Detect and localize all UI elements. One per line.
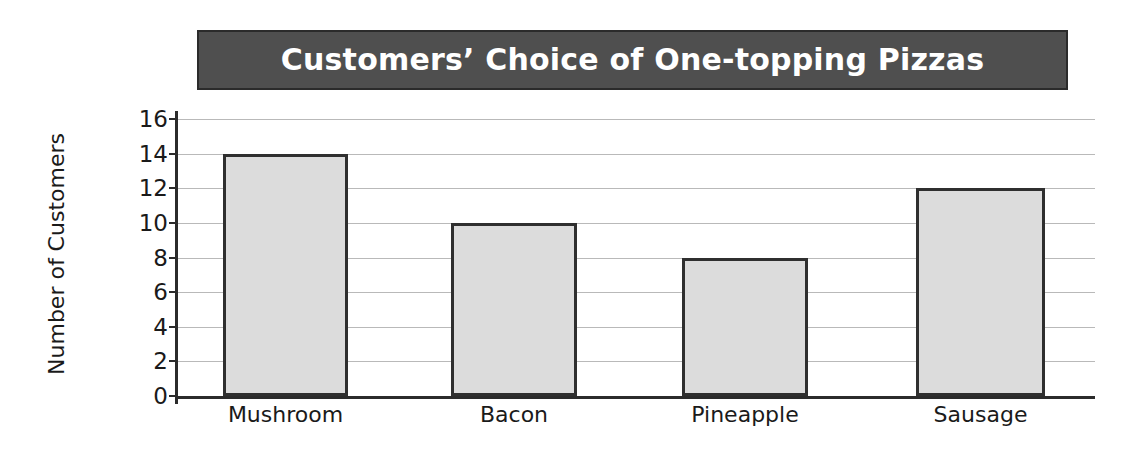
y-axis-tick-label: 6 bbox=[153, 281, 168, 304]
y-axis-tick bbox=[169, 257, 178, 259]
gridline bbox=[178, 119, 1095, 120]
y-axis-label-text: Number of Customers bbox=[44, 133, 69, 375]
plot-area bbox=[178, 119, 1095, 396]
bar-mushroom bbox=[223, 154, 348, 396]
y-axis-tick-label: 8 bbox=[153, 246, 168, 269]
bar-pineapple bbox=[682, 258, 808, 397]
y-axis-tick-label: 10 bbox=[139, 211, 168, 234]
x-axis-label-bacon: Bacon bbox=[480, 404, 548, 426]
bar-sausage bbox=[916, 188, 1045, 396]
y-axis-tick-label: 0 bbox=[153, 385, 168, 408]
y-axis-tick bbox=[169, 222, 178, 224]
y-axis-tick bbox=[169, 395, 178, 397]
bar-chart: Customers’ Choice of One-topping Pizzas … bbox=[0, 0, 1128, 460]
y-axis-tick-label: 4 bbox=[153, 315, 168, 338]
chart-title: Customers’ Choice of One-topping Pizzas bbox=[281, 45, 984, 75]
x-axis-label-pineapple: Pineapple bbox=[691, 404, 798, 426]
y-axis-tick-label: 14 bbox=[139, 142, 168, 165]
y-axis-tick-label: 2 bbox=[153, 350, 168, 373]
y-axis-tick bbox=[169, 291, 178, 293]
x-axis-line bbox=[175, 396, 1095, 399]
x-axis-label-mushroom: Mushroom bbox=[228, 404, 343, 426]
x-axis-label-sausage: Sausage bbox=[934, 404, 1028, 426]
y-axis-tick bbox=[169, 118, 178, 120]
y-axis-tick bbox=[169, 187, 178, 189]
y-axis-tick bbox=[169, 153, 178, 155]
y-axis-label: Number of Customers bbox=[36, 108, 76, 400]
y-axis-tick bbox=[169, 360, 178, 362]
bar-bacon bbox=[451, 223, 577, 396]
x-axis-category-labels: MushroomBaconPineappleSausage bbox=[178, 404, 1095, 438]
y-axis-tick bbox=[169, 326, 178, 328]
chart-title-banner: Customers’ Choice of One-topping Pizzas bbox=[197, 30, 1068, 90]
y-axis-tick-label: 16 bbox=[139, 108, 168, 131]
y-axis-tick-labels: 0246810121416 bbox=[110, 119, 168, 396]
y-axis-tick-label: 12 bbox=[139, 177, 168, 200]
